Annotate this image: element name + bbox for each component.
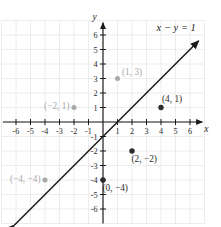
data-point xyxy=(43,178,48,183)
graph-figure: -6-5-4-3-2-1123456654321-1-2-3-4-5-6xyx … xyxy=(0,0,221,227)
x-tick-label: 3 xyxy=(144,127,148,136)
coordinate-plane: -6-5-4-3-2-1123456654321-1-2-3-4-5-6xyx … xyxy=(0,0,221,227)
x-tick-label: -4 xyxy=(42,127,49,136)
equation-label: x − y = 1 xyxy=(156,22,196,33)
x-tick-label: -6 xyxy=(13,127,20,136)
y-tick-label: -3 xyxy=(91,162,98,171)
y-tick-label: -4 xyxy=(91,176,98,185)
x-axis-label: x xyxy=(203,124,209,134)
y-tick-label: 2 xyxy=(94,89,98,98)
y-tick-label: -5 xyxy=(91,191,98,200)
data-point-label: (−2, 1) xyxy=(44,101,69,112)
x-tick-label: 6 xyxy=(188,127,192,136)
x-tick-label: -5 xyxy=(27,127,34,136)
axes xyxy=(3,23,202,224)
y-tick-label: 6 xyxy=(94,31,98,40)
x-tick-label: -2 xyxy=(71,127,78,136)
y-axis-label: y xyxy=(91,12,97,22)
y-tick-label: 4 xyxy=(94,60,98,69)
data-point-label: (0, −4) xyxy=(103,183,128,194)
x-tick-label: 2 xyxy=(130,127,134,136)
y-tick-label: 5 xyxy=(94,46,98,55)
x-tick-label: 4 xyxy=(159,127,163,136)
x-tick-label: 5 xyxy=(173,127,177,136)
data-point-label: (4, 1) xyxy=(162,94,182,105)
y-tick-label: -1 xyxy=(91,133,98,142)
data-point xyxy=(115,76,120,81)
data-point xyxy=(158,105,163,110)
x-tick-label: -3 xyxy=(56,127,63,136)
y-tick-label: 1 xyxy=(94,104,98,113)
data-point-label: (−4, −4) xyxy=(10,174,41,185)
y-tick-label: -6 xyxy=(91,205,98,214)
data-point-label: (2, −2) xyxy=(132,154,157,165)
data-point-label: (1, 3) xyxy=(122,67,142,78)
y-tick-label: 3 xyxy=(94,75,98,84)
x-tick-label: 1 xyxy=(115,127,119,136)
data-point xyxy=(72,105,77,110)
